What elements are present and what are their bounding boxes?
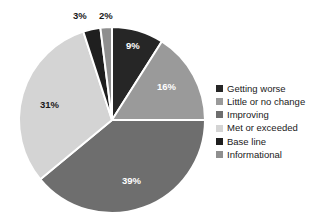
legend-item-5[interactable]: Informational [216,148,328,161]
legend-item-0[interactable]: Getting worse [216,82,328,95]
slice-label-met-or-exceeded: 31% [40,100,59,110]
slice-label-informational: 2% [99,11,113,21]
legend-swatch-icon [216,98,223,105]
legend-item-label: Little or no change [227,97,305,107]
legend-item-1[interactable]: Little or no change [216,95,328,108]
legend-item-label: Base line [227,137,266,147]
legend-item-label: Getting worse [227,84,286,94]
legend-swatch-icon [216,111,223,118]
pie-chart-figure: 9%16%39%31%3%2% Getting worseLittle or n… [0,0,332,223]
legend-swatch-icon [216,125,223,132]
legend-item-2[interactable]: Improving [216,108,328,121]
legend-swatch-icon [216,151,223,158]
pie-slices-group [19,27,205,213]
legend-item-3[interactable]: Met or exceeded [216,122,328,135]
legend-item-label: Informational [227,150,282,160]
legend-item-label: Met or exceeded [227,123,298,133]
slice-label-improving: 39% [122,176,141,186]
slice-label-little-or-no-change: 16% [157,82,176,92]
legend-swatch-icon [216,85,223,92]
legend-swatch-icon [216,138,223,145]
legend-item-4[interactable]: Base line [216,135,328,148]
slice-label-getting-worse: 9% [126,41,140,51]
legend-item-label: Improving [227,110,269,120]
slice-label-base-line: 3% [73,11,87,21]
chart-legend: Getting worseLittle or no changeImprovin… [216,82,328,161]
